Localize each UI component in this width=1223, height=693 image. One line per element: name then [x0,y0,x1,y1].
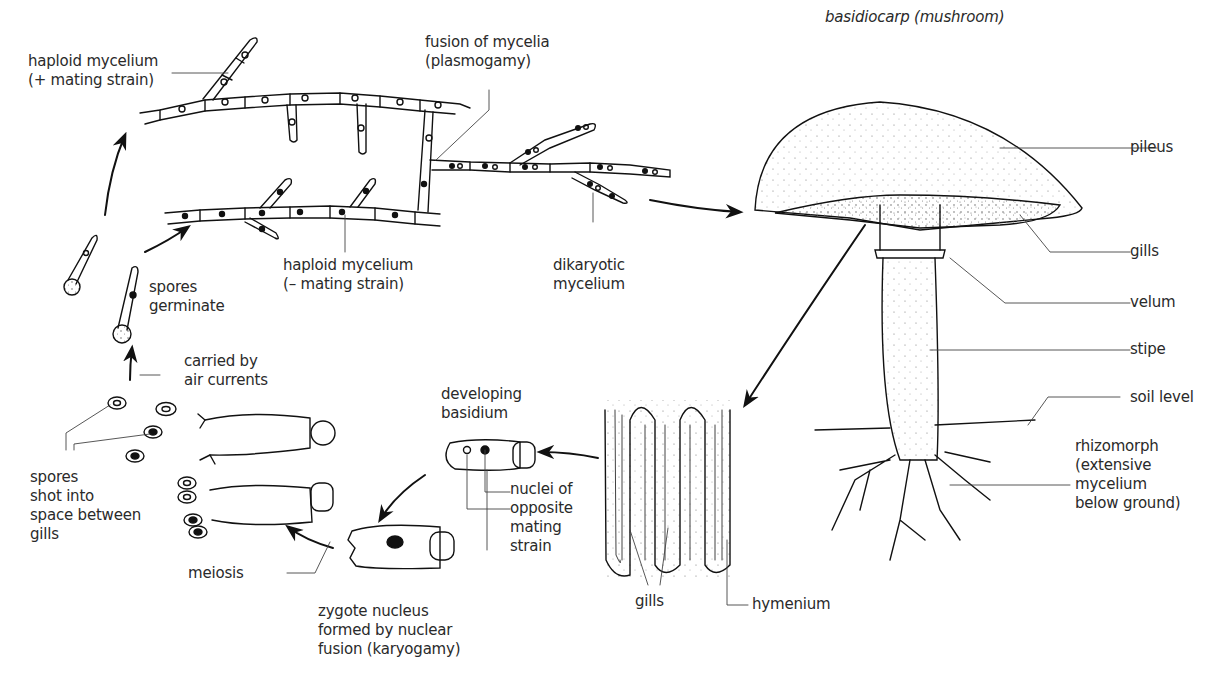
label-carried-by-air: carried by air currents [184,352,268,390]
label-haploid-plus: haploid mycelium (+ mating strain) [28,52,158,90]
label-zygote-nucleus: zygote nucleus formed by nuclear fusion … [318,602,460,659]
basidium-with-spores [178,477,333,538]
haploid-minus-hypha [165,179,440,239]
label-gills: gills [1130,242,1159,261]
germinating-spores [64,235,138,343]
free-spores [108,397,176,462]
label-spores-germinate: spores germinate [149,278,224,316]
dikaryotic-hypha [430,124,670,204]
label-meiosis: meiosis [188,564,244,583]
label-developing-basidium: developing basidium [441,385,522,423]
haploid-plus-hypha [140,38,470,154]
label-velum: velum [1130,293,1175,312]
zygote-basidium [348,525,454,568]
developing-basidium [446,440,535,471]
label-rhizomorph: rhizomorph (extensive mycelium below gro… [1075,437,1180,513]
basidium-sterigmata [198,414,335,464]
gill-section [603,400,733,580]
mushroom [755,102,1082,560]
lifecycle-artwork [0,0,1223,693]
label-soil-level: soil level [1130,388,1194,407]
label-fusion-of-mycelia: fusion of mycelia (plasmogamy) [425,33,550,71]
label-dikaryotic-mycelium: dikaryotic mycelium [553,256,625,294]
label-gills-section: gills [635,592,664,611]
diagram-title: basidiocarp (mushroom) [825,8,1004,27]
label-nuclei-opposite-strain: nuclei of opposite mating strain [510,480,573,556]
label-pileus: pileus [1130,138,1173,157]
label-stipe: stipe [1130,340,1166,359]
label-spores-shot: spores shot into space between gills [30,468,141,544]
label-haploid-minus: haploid mycelium (– mating strain) [283,256,413,294]
label-hymenium: hymenium [752,595,830,614]
